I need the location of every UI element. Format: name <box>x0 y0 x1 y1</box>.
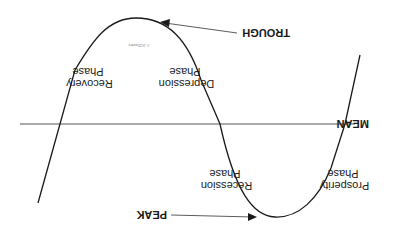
phase-depression: Depression Phase <box>156 66 215 90</box>
trough-label: TROUGH <box>242 27 290 39</box>
phase-recession: Recession Phase <box>198 168 252 192</box>
peak-label: PEAK <box>136 209 167 221</box>
peak-arrow <box>171 215 253 217</box>
trough-arrow <box>165 23 237 33</box>
phase-recovery: Recovery Phase <box>63 66 113 90</box>
business-cycle-diagram: MEAN PEAK TROUGH Prosperity Phase Recess… <box>0 0 393 240</box>
phase-prosperity: Prosperity Phase <box>317 168 370 192</box>
credit-text: © JCDavies <box>128 43 149 48</box>
peak-arrowhead-icon <box>248 213 257 221</box>
mean-label: MEAN <box>337 118 369 130</box>
